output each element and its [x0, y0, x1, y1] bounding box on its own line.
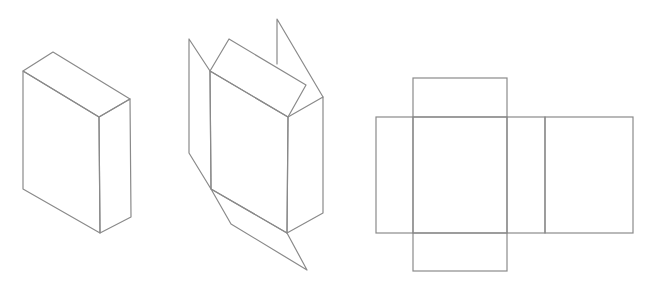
unfolding-box-top-flap	[210, 39, 306, 117]
closed-box	[23, 52, 131, 233]
diagram-canvas	[0, 0, 651, 288]
net-front-panel	[413, 117, 507, 233]
diagram-svg	[0, 0, 651, 288]
net-back-panel	[545, 117, 633, 233]
net-left-panel	[376, 117, 413, 233]
net-top-flap	[413, 78, 507, 117]
unfolding-box	[189, 19, 323, 270]
unfolding-box-side-face	[287, 97, 323, 233]
unfolding-box-left-flap	[189, 39, 211, 189]
net-bottom-flap	[413, 233, 507, 271]
net-side-panel	[507, 117, 545, 233]
closed-box-front-face	[23, 71, 100, 233]
closed-box-top-face	[23, 52, 130, 117]
closed-box-side-face	[99, 99, 131, 233]
unfolding-box-right-flap	[277, 19, 323, 97]
box-net	[376, 78, 633, 271]
